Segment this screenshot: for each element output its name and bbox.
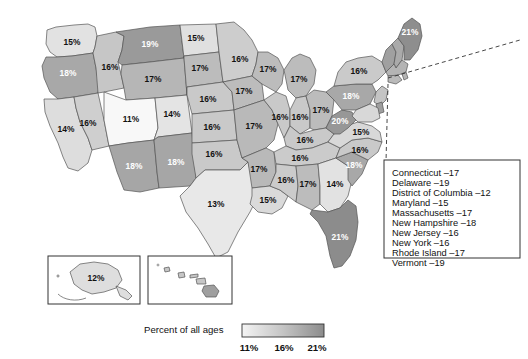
label-ohio: 17% (313, 105, 330, 115)
callout-item-connecticut: Connecticut –17 (392, 168, 459, 178)
callout-item-vermont: Vermont –19 (392, 258, 445, 268)
label-nebraska: 16% (200, 94, 217, 104)
label-colorado: 14% (164, 109, 181, 119)
hawaii-inset-frame (148, 256, 232, 304)
label-illinois: 16% (272, 112, 289, 122)
hawaii-island-molokai[interactable] (190, 274, 198, 278)
label-virginia: 15% (353, 127, 370, 137)
label-minnesota: 16% (232, 54, 249, 64)
label-south-carolina: 18% (346, 160, 363, 170)
label-oklahoma: 16% (206, 149, 223, 159)
hawaii-island-niihau (157, 264, 159, 266)
label-california: 14% (58, 124, 75, 134)
label-wyoming: 17% (145, 74, 162, 84)
label-montana: 19% (142, 39, 159, 49)
label-maine: 21% (402, 27, 419, 37)
callout-item-new-hampshire: New Hampshire –18 (392, 218, 476, 228)
label-new-york: 16% (351, 66, 368, 76)
callout-item-new-york: New York –16 (392, 238, 449, 248)
label-georgia: 14% (327, 179, 344, 189)
callout-item-rhode-island: Rhode Island –17 (392, 248, 465, 258)
legend-tick-high: 21% (307, 342, 327, 353)
callout-item-district-of-columbia: District of Columbia –12 (392, 188, 491, 198)
label-kentucky: 16% (297, 135, 314, 145)
label-texas: 13% (208, 199, 225, 209)
label-pennsylvania: 18% (343, 91, 360, 101)
hawaii-island-oahu[interactable] (178, 272, 185, 278)
label-north-carolina: 16% (352, 145, 369, 155)
label-alaska: 12% (88, 273, 105, 283)
label-nevada: 16% (80, 118, 97, 128)
callout-item-maryland: Maryland –15 (392, 198, 448, 208)
label-south-dakota: 17% (192, 63, 209, 73)
map-svg: 15% 18% 14% 16% 16% 19% 17% 11% 18% 18% … (0, 0, 528, 359)
label-tennessee: 16% (292, 153, 309, 163)
hawaii-inset (148, 256, 232, 304)
label-mississippi: 16% (278, 175, 295, 185)
label-missouri: 17% (246, 121, 263, 131)
callout-item-massachusetts: Massachusetts –17 (392, 208, 472, 218)
callout-item-new-jersey: New Jersey –16 (392, 228, 459, 238)
label-oregon: 18% (60, 68, 77, 78)
alaska-inset: 12% (48, 256, 140, 304)
label-arizona: 18% (126, 161, 143, 171)
label-arkansas: 17% (251, 164, 268, 174)
label-utah: 11% (123, 114, 140, 124)
label-new-mexico: 18% (168, 157, 185, 167)
label-washington: 15% (64, 37, 81, 47)
legend-tick-low: 11% (240, 342, 259, 353)
callout-item-delaware: Delaware –19 (392, 178, 449, 188)
label-west-virginia: 20% (332, 116, 349, 126)
label-louisiana: 15% (260, 195, 277, 205)
label-wisconsin: 17% (260, 64, 277, 74)
label-idaho: 16% (102, 62, 119, 72)
alaska-island-dot (57, 275, 59, 277)
legend-tick-mid: 16% (274, 342, 294, 353)
hawaii-island-maui[interactable] (196, 278, 206, 284)
label-alabama: 17% (300, 179, 317, 189)
legend-gradient-bar (242, 324, 324, 337)
hawaii-island-kauai[interactable] (164, 267, 170, 272)
label-iowa: 17% (236, 86, 253, 96)
label-michigan: 17% (291, 74, 308, 84)
label-florida: 21% (332, 232, 349, 242)
us-choropleth-map-figure: 15% 18% 14% 16% 16% 19% 17% 11% 18% 18% … (0, 0, 528, 359)
label-indiana: 16% (292, 112, 309, 122)
legend-title: Percent of all ages (144, 324, 224, 335)
label-kansas: 16% (204, 122, 221, 132)
label-north-dakota: 15% (188, 33, 205, 43)
